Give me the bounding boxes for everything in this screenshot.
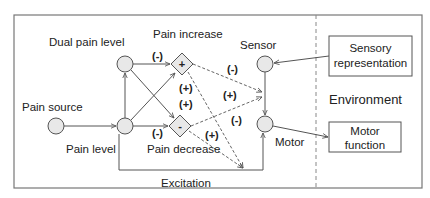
edge-decrease-to-sensor: [191, 97, 262, 126]
node-sensor: [257, 56, 273, 72]
label-pain-level: Pain level: [66, 143, 116, 155]
label-pain-increase: Pain increase: [153, 28, 223, 40]
sign-decrease-to-sensor: (+): [223, 89, 237, 101]
label-motor-function-1: Motor: [350, 125, 380, 137]
label-motor-function-2: function: [345, 139, 385, 151]
label-pain-source: Pain source: [22, 101, 83, 113]
sign-increase-to-sensor: (-): [227, 63, 238, 75]
node-pain-level: [117, 118, 133, 134]
decrease-symbol: -: [178, 120, 182, 132]
label-pain-decrease: Pain decrease: [147, 143, 221, 155]
edge-level-to-increase: [131, 73, 175, 120]
node-motor: [257, 116, 273, 132]
sign-dual-to-increase: (-): [152, 50, 163, 62]
sign-decrease-to-motor: (+): [205, 129, 219, 141]
edge-dual-to-decrease: [131, 70, 174, 118]
label-motor: Motor: [275, 136, 305, 148]
edge-sensory-rep-to-sensor: [274, 56, 329, 63]
label-sensory-rep-2: representation: [334, 57, 408, 69]
label-excitation: Excitation: [161, 177, 211, 189]
pain-model-diagram: + - Dual pain level Pain increase Pain s…: [0, 0, 430, 198]
sign-level-to-decrease: (-): [152, 127, 163, 139]
label-sensory-rep-1: Sensory: [349, 42, 391, 54]
label-dual-pain-level: Dual pain level: [49, 36, 124, 48]
label-environment: Environment: [329, 92, 402, 107]
node-pain-source: [48, 118, 64, 134]
label-sensor: Sensor: [240, 39, 277, 51]
sign-level-to-increase: (+): [179, 82, 193, 94]
sign-dual-to-decrease: (+): [179, 98, 193, 110]
increase-symbol: +: [179, 58, 185, 70]
node-dual-pain-level: [117, 56, 133, 72]
sign-increase-to-motor: (-): [231, 114, 242, 126]
